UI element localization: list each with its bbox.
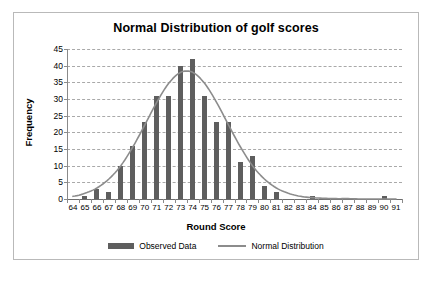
legend-swatch-line-icon — [218, 245, 246, 247]
y-axis-title: Frequency — [23, 78, 34, 168]
x-tick-label: 67 — [104, 203, 113, 212]
x-tick-label: 79 — [248, 203, 257, 212]
x-tick-label: 70 — [140, 203, 149, 212]
x-tick-label: 77 — [224, 203, 233, 212]
x-tick-mark — [402, 199, 403, 203]
x-tick-label: 73 — [176, 203, 185, 212]
y-tick-label: 35 — [54, 77, 63, 87]
x-tick-label: 82 — [284, 203, 293, 212]
x-tick-label: 81 — [272, 203, 281, 212]
x-tick-label: 74 — [188, 203, 197, 212]
y-tick-label: 20 — [54, 127, 63, 137]
y-tick-label: 10 — [54, 161, 63, 171]
x-axis-tick-labels: 6465666768697071727374757677787980818283… — [67, 203, 402, 215]
chart-legend: Observed Data Normal Distribution — [14, 241, 418, 251]
x-tick-label: 75 — [200, 203, 209, 212]
y-tick-label: 40 — [54, 61, 63, 71]
chart-title: Normal Distribution of golf scores — [14, 21, 418, 35]
x-tick-label: 87 — [344, 203, 353, 212]
legend-swatch-bar-icon — [108, 243, 134, 249]
y-tick-label: 30 — [54, 94, 63, 104]
x-axis-title: Round Score — [14, 221, 418, 232]
legend-label-observed-data: Observed Data — [139, 241, 196, 251]
legend-item-observed-data: Observed Data — [108, 241, 196, 251]
x-tick-label: 76 — [212, 203, 221, 212]
plot-area: 051015202530354045 — [67, 49, 402, 199]
x-tick-label: 64 — [69, 203, 78, 212]
x-tick-label: 90 — [380, 203, 389, 212]
x-tick-label: 84 — [308, 203, 317, 212]
y-tick-label: 25 — [54, 111, 63, 121]
x-tick-label: 69 — [128, 203, 137, 212]
legend-label-normal-distribution: Normal Distribution — [251, 241, 323, 251]
x-tick-label: 86 — [332, 203, 341, 212]
legend-item-normal-distribution: Normal Distribution — [218, 241, 323, 251]
y-tick-label: 15 — [54, 144, 63, 154]
x-tick-label: 91 — [392, 203, 401, 212]
x-tick-label: 80 — [260, 203, 269, 212]
x-tick-label: 66 — [92, 203, 101, 212]
x-tick-label: 88 — [356, 203, 365, 212]
x-tick-label: 89 — [368, 203, 377, 212]
x-tick-label: 71 — [152, 203, 161, 212]
x-tick-label: 85 — [320, 203, 329, 212]
y-tick-label: 45 — [54, 44, 63, 54]
y-tick-label: 5 — [58, 177, 63, 187]
x-tick-label: 83 — [296, 203, 305, 212]
x-tick-label: 72 — [164, 203, 173, 212]
line-series-normal-distribution — [67, 49, 402, 199]
y-tick-label: 0 — [58, 194, 63, 204]
x-tick-label: 68 — [116, 203, 125, 212]
chart-container: Normal Distribution of golf scores Frequ… — [13, 12, 419, 260]
x-tick-label: 78 — [236, 203, 245, 212]
x-tick-label: 65 — [80, 203, 89, 212]
